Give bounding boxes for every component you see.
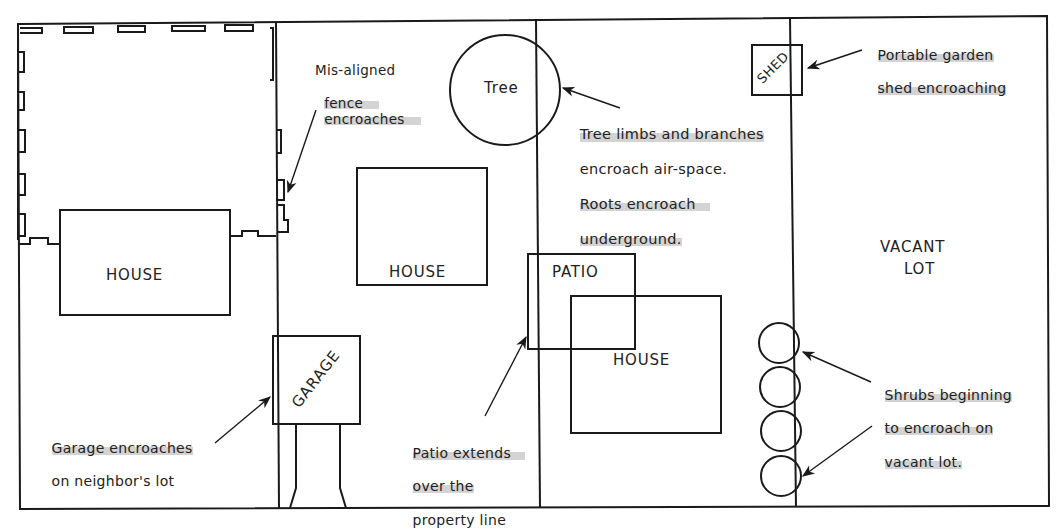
arrow-shed — [808, 50, 862, 68]
annotation-shed: Portable garden shed encroaching — [868, 30, 1006, 97]
lot-line-2 — [536, 20, 540, 508]
lot-line-3 — [790, 18, 796, 507]
arrow-shrubs-top — [803, 352, 871, 382]
house-lot-1-label: HOUSE — [106, 266, 163, 284]
annotation-fence: Mis-aligned fence encroaches — [315, 30, 421, 127]
vacant-lot-label-1: VACANT — [880, 238, 945, 256]
annotation-tree: Tree limbs and branches encroach air-spa… — [570, 109, 764, 248]
arrow-garage — [215, 397, 270, 443]
annotation-shrubs: Shrubs beginning to encroach on vacant l… — [875, 370, 1012, 471]
house-lot-3-label: HOUSE — [613, 351, 670, 369]
lot-line-1 — [276, 22, 279, 508]
annotation-garage: Garage encroaches on neighbor's lot — [42, 423, 193, 490]
annotation-patio: Patio extends over the property line — [403, 428, 525, 529]
arrow-tree — [563, 88, 620, 108]
arrow-fence — [288, 110, 316, 192]
arrow-shrubs-bottom — [803, 426, 872, 476]
vacant-lot-label-2: LOT — [904, 260, 935, 278]
arrow-patio — [485, 337, 526, 416]
house-lot-1 — [60, 210, 230, 315]
patio-label: PATIO — [552, 263, 599, 281]
driveway — [290, 424, 346, 508]
house-lot-2-label: HOUSE — [389, 263, 446, 281]
tree-label: Tree — [484, 79, 518, 97]
